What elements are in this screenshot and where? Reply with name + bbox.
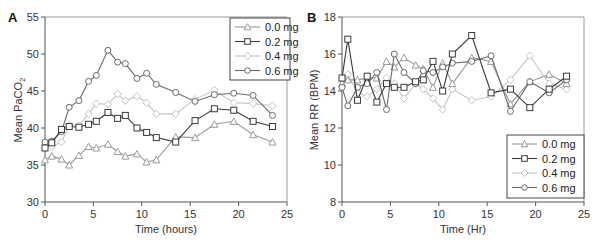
square-marker-icon	[374, 99, 380, 105]
chart-a-legend: 0.0 mg0.2 mg0.4 mg0.6 mg	[230, 18, 299, 80]
circle-marker-icon	[76, 98, 82, 104]
legend-label: 0.4 mg	[542, 167, 576, 179]
circle-marker-icon	[345, 103, 351, 109]
diamond-marker-icon	[133, 92, 140, 99]
y-tick-label: 35	[27, 159, 39, 171]
legend-label: 0.0 mg	[265, 21, 299, 33]
triangle-marker-icon	[250, 131, 257, 138]
square-marker-icon	[546, 86, 552, 92]
triangle-marker-icon	[429, 84, 436, 91]
square-marker-icon	[231, 107, 237, 113]
triangle-marker-icon	[383, 58, 390, 65]
circle-marker-icon	[144, 70, 150, 76]
circle-marker-icon	[507, 108, 513, 114]
x-tick-label: 5	[387, 208, 393, 220]
triangle-marker-icon	[104, 141, 111, 148]
x-tick-label: 10	[136, 208, 148, 220]
y-tick-label: 16	[324, 48, 336, 60]
square-marker-icon	[339, 75, 345, 81]
x-tick-label: 0	[339, 208, 345, 220]
square-marker-icon	[153, 135, 159, 141]
circle-marker-icon	[469, 58, 475, 64]
y-tick-label: 18	[324, 11, 336, 23]
circle-marker-icon	[250, 92, 256, 98]
circle-marker-icon	[339, 84, 345, 90]
square-marker-icon	[122, 112, 128, 118]
square-marker-icon	[364, 73, 370, 79]
square-marker-icon	[49, 140, 55, 146]
x-tick-label: 15	[184, 208, 196, 220]
triangle-marker-icon	[230, 118, 237, 125]
chart-b-ylabel: Mean RR (BPM)	[308, 70, 320, 151]
y-tick-label: 30	[27, 196, 39, 208]
circle-marker-icon	[420, 68, 426, 74]
square-marker-icon	[76, 124, 82, 130]
legend-label: 0.6 mg	[542, 182, 576, 194]
circle-marker-icon	[122, 61, 128, 67]
chart-a: A 3035404550550510152025 Time (hours) Me…	[8, 10, 299, 235]
diamond-marker-icon	[58, 138, 65, 145]
square-marker-icon	[469, 33, 475, 39]
triangle-marker-icon	[85, 143, 92, 150]
square-marker-icon	[440, 88, 446, 94]
triangle-marker-icon	[133, 150, 140, 157]
square-marker-icon	[115, 115, 121, 121]
chart-a-xlabel: Time (hours)	[135, 223, 197, 235]
y-tick-label: 10	[324, 159, 336, 171]
panel-label-a: A	[8, 10, 18, 25]
square-marker-icon	[93, 118, 99, 124]
circle-marker-icon	[488, 53, 494, 59]
circle-marker-icon	[245, 68, 251, 74]
chart-b-series	[338, 33, 570, 115]
x-tick-label: 10	[433, 208, 445, 220]
square-marker-icon	[269, 124, 275, 130]
square-marker-icon	[105, 109, 111, 115]
circle-marker-icon	[153, 81, 159, 87]
circle-marker-icon	[42, 139, 48, 145]
chart-a-ylabel: Mean PaCO2	[12, 77, 27, 143]
square-marker-icon	[250, 118, 256, 124]
x-tick-label: 5	[90, 208, 96, 220]
square-marker-icon	[384, 81, 390, 87]
diamond-marker-icon	[269, 102, 276, 109]
circle-marker-icon	[173, 89, 179, 95]
legend-label: 0.4 mg	[265, 50, 299, 62]
circle-marker-icon	[401, 70, 407, 76]
circle-marker-icon	[66, 104, 72, 110]
square-marker-icon	[245, 39, 251, 45]
circle-marker-icon	[115, 59, 121, 65]
y-tick-label: 45	[27, 85, 39, 97]
circle-marker-icon	[527, 79, 533, 85]
x-tick-label: 0	[42, 208, 48, 220]
circle-marker-icon	[269, 112, 275, 118]
square-marker-icon	[134, 125, 140, 131]
square-marker-icon	[86, 121, 92, 127]
square-marker-icon	[449, 51, 455, 57]
legend-label: 0.0 mg	[542, 138, 576, 150]
y-tick-label: 12	[324, 122, 336, 134]
square-marker-icon	[58, 126, 64, 132]
legend-label: 0.2 mg	[265, 36, 299, 48]
square-marker-icon	[527, 105, 533, 111]
triangle-marker-icon	[400, 54, 407, 61]
square-marker-icon	[401, 84, 407, 90]
circle-marker-icon	[430, 70, 436, 76]
square-marker-icon	[564, 73, 570, 79]
circle-marker-icon	[192, 98, 198, 104]
y-tick-label: 40	[27, 122, 39, 134]
square-marker-icon	[354, 97, 360, 103]
square-marker-icon	[42, 145, 48, 151]
circle-marker-icon	[231, 90, 237, 96]
square-marker-icon	[144, 129, 150, 135]
figure: A 3035404550550510152025 Time (hours) Me…	[0, 0, 597, 245]
circle-marker-icon	[134, 75, 140, 81]
legend-label: 0.2 mg	[542, 153, 576, 165]
chart-b-xlabel: Time (Hr)	[440, 223, 486, 235]
diamond-marker-icon	[230, 99, 237, 106]
x-tick-label: 20	[529, 208, 541, 220]
circle-marker-icon	[374, 70, 380, 76]
x-tick-label: 20	[232, 208, 244, 220]
circle-marker-icon	[440, 64, 446, 70]
y-tick-label: 8	[330, 196, 336, 208]
circle-marker-icon	[86, 78, 92, 84]
